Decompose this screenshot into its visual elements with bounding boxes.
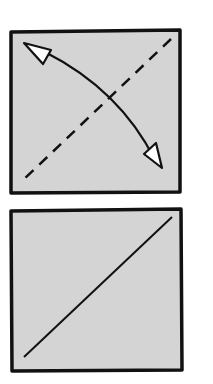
bottom-square	[11, 209, 182, 371]
top-panel-folding-diagram	[0, 20, 213, 200]
bottom-panel-folding-diagram	[0, 200, 213, 384]
bottom-panel-svg	[0, 200, 213, 384]
top-panel-svg	[0, 20, 213, 200]
